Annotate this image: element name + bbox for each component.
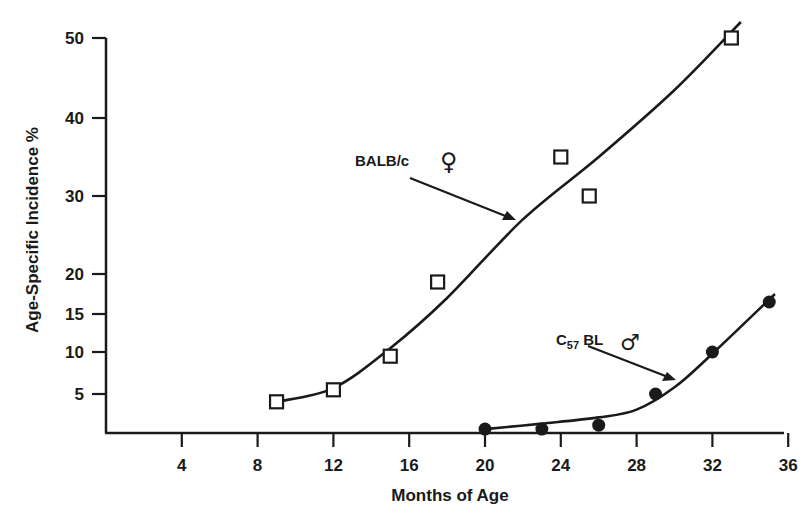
x-tick-label: 24 (551, 456, 570, 475)
balbc-data-point (327, 383, 340, 396)
y-axis-ticks: 5101520304050 (65, 29, 106, 404)
balbc-data-point (725, 32, 738, 45)
balbc-data-point (431, 276, 444, 289)
y-tick-label: 50 (65, 29, 84, 48)
c57bl-data-point (479, 423, 492, 436)
balbc-data-point (270, 395, 283, 408)
balbc-fit-curve (277, 22, 741, 402)
y-tick-label: 15 (65, 305, 84, 324)
y-axis-title: Age-Specific Incidence % (23, 127, 42, 333)
y-tick-label: 10 (65, 343, 84, 362)
y-tick-label: 20 (65, 265, 84, 284)
c57bl-data-point (592, 419, 605, 432)
x-tick-label: 36 (779, 456, 798, 475)
male-symbol-icon: ♂ (620, 330, 640, 355)
y-tick-label: 40 (65, 109, 84, 128)
x-tick-label: 28 (627, 456, 646, 475)
incidence-chart: 5101520304050 4812162024283236 Months of… (0, 0, 808, 525)
c57bl-data-point (649, 388, 662, 401)
annotation-balbc: BALB/c ♀ (355, 148, 516, 220)
y-tick-label: 5 (75, 385, 84, 404)
c57bl-data-point (763, 296, 776, 309)
annotation-balbc-arrow (410, 178, 508, 217)
axes (105, 38, 784, 433)
x-tick-label: 32 (703, 456, 722, 475)
c57bl-data-point (535, 423, 548, 436)
annotation-balbc-label: BALB/c (355, 152, 409, 169)
balbc-data-point (554, 151, 567, 164)
balbc-data-point (384, 350, 397, 363)
x-tick-label: 8 (253, 456, 262, 475)
x-tick-label: 20 (476, 456, 495, 475)
c57bl-data-point (706, 346, 719, 359)
annotation-c57bl: C57 BL ♂ (556, 330, 676, 381)
x-axis-ticks: 4812162024283236 (177, 433, 798, 475)
x-tick-label: 12 (324, 456, 343, 475)
female-symbol-icon: ♀ (440, 148, 458, 176)
x-tick-label: 4 (177, 456, 187, 475)
x-tick-label: 16 (400, 456, 419, 475)
balbc-data-point (583, 190, 596, 203)
fit-curves (277, 22, 775, 429)
data-markers (270, 32, 776, 436)
y-tick-label: 30 (65, 187, 84, 206)
x-axis-title: Months of Age (391, 486, 508, 505)
